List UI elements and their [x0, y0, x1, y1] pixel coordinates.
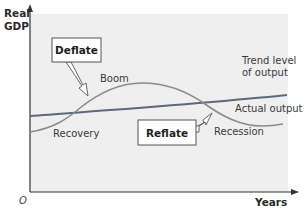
- y-axis-label-real: Real: [4, 7, 30, 19]
- origin-label: O: [19, 195, 27, 206]
- phase-recovery-label: Recovery: [53, 128, 99, 140]
- trend-label-line2: of output: [242, 67, 288, 79]
- trend-label-line1: Trend level: [242, 55, 296, 67]
- reflate-label: Reflate: [138, 127, 196, 139]
- actual-output-label: Actual output: [235, 103, 303, 115]
- phase-recession-label: Recession: [214, 126, 264, 138]
- y-axis-label-gdp: GDP: [4, 20, 29, 32]
- deflate-label: Deflate: [52, 44, 101, 56]
- x-axis-arrow-icon: [291, 189, 299, 195]
- phase-boom-label: Boom: [100, 73, 129, 85]
- x-axis-label: Years: [255, 196, 287, 208]
